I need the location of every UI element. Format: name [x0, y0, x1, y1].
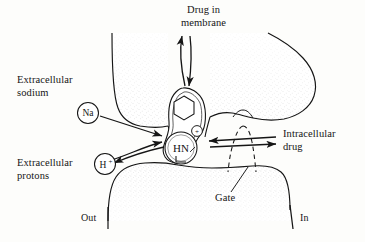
- gate-label: Gate: [215, 192, 235, 205]
- charge-label: +: [195, 128, 199, 136]
- drug-molecule-icon: HN +: [163, 88, 205, 164]
- proton-ion: H +: [95, 154, 116, 175]
- membrane-lower: [108, 163, 293, 229]
- in-label: In: [300, 212, 309, 225]
- sodium-label: Na: [82, 108, 94, 118]
- extracellular-sodium-label: Extracellular sodium: [17, 74, 73, 99]
- in-boundary-tick: [290, 205, 293, 229]
- amine-label: HN: [173, 142, 189, 154]
- proton-label: H: [100, 160, 107, 170]
- arrow-down-icon: [189, 36, 191, 86]
- arrow-drug-out-icon: [210, 144, 276, 147]
- membrane-drug-diagram: HN +: [0, 0, 365, 242]
- arrow-pair-intracellular: [209, 137, 276, 147]
- proton-charge-label: +: [109, 158, 113, 166]
- arrow-proton-in-icon: [112, 142, 162, 160]
- extracellular-protons-label: Extracellular protons: [17, 157, 73, 182]
- benzene-ring: [174, 96, 194, 120]
- diagram-canvas: HN +: [0, 0, 365, 242]
- drug-in-membrane-label: Drug in membrane: [181, 4, 226, 29]
- arrow-drug-in-icon: [209, 137, 276, 141]
- arrow-pair-membrane: [181, 36, 192, 86]
- arrow-up-icon: [181, 36, 185, 86]
- sodium-ion: Na: [78, 103, 99, 124]
- intracellular-drug-label: Intracellular drug: [283, 128, 336, 153]
- arrow-pair-proton: [112, 142, 164, 163]
- out-label: Out: [81, 212, 96, 225]
